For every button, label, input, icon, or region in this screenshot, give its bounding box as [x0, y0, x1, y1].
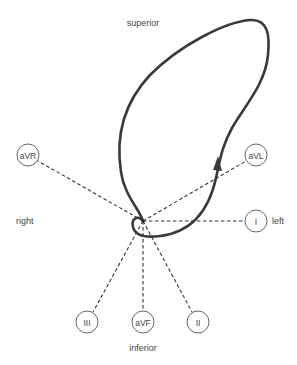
vector-loop-diagram: aVR aVL I III aVF II superior inferior r…	[0, 0, 297, 365]
qrs-loop	[119, 20, 268, 237]
axis-avl	[143, 161, 246, 221]
axis-iii	[93, 221, 143, 312]
lead-aVL: aVL	[245, 144, 267, 166]
lead-label: aVL	[248, 151, 263, 161]
lead-label: aVR	[20, 151, 37, 161]
lead-label: I	[255, 217, 257, 227]
origin-point	[142, 220, 145, 223]
label-right: right	[16, 216, 34, 226]
label-inferior: inferior	[129, 343, 157, 353]
lead-aVR: aVR	[17, 144, 39, 166]
lead-label: aVF	[135, 318, 151, 328]
lead-aVF: aVF	[132, 311, 154, 333]
loop-return-path	[133, 178, 216, 237]
label-superior: superior	[127, 18, 160, 28]
lead-label: III	[83, 318, 90, 328]
lead-label: II	[196, 318, 201, 328]
label-left: left	[272, 216, 285, 226]
lead-III: III	[76, 311, 98, 333]
lead-I: I	[245, 210, 267, 232]
lead-II: II	[187, 311, 209, 333]
loop-path	[119, 20, 268, 221]
